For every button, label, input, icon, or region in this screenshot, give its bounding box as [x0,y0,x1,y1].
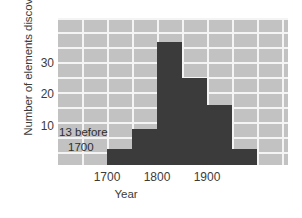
x-tick-1800: 1800 [135,170,179,184]
x-tick-1700: 1700 [85,170,129,184]
gridline-h-1 [58,32,288,34]
gridline-v-9 [282,18,284,165]
y-tick-10: 10 [28,120,54,132]
bar-1900-1950 [207,105,232,165]
histogram-figure: Number of elements discovered 30 20 10 [0,0,302,218]
annotation-line-2: 1700 [59,140,121,155]
x-axis-title: Year [0,188,252,200]
bar-1750-1800 [132,129,157,165]
x-tick-1900: 1900 [185,170,229,184]
x-axis-tick-labels: 1700 1800 1900 [0,170,302,186]
gridline-v-8 [257,18,259,165]
bar-1800-1850 [157,42,182,165]
y-tick-20: 20 [28,88,54,100]
gridline-v-7 [232,18,234,165]
y-tick-30: 30 [28,57,54,69]
annotation-line-1: 13 before [59,125,121,140]
bar-1850-1900 [182,78,207,165]
gridline-h-0 [58,18,288,20]
annotation-13-before-1700: 13 before 1700 [59,125,121,155]
bar-1950-2000 [232,149,257,165]
